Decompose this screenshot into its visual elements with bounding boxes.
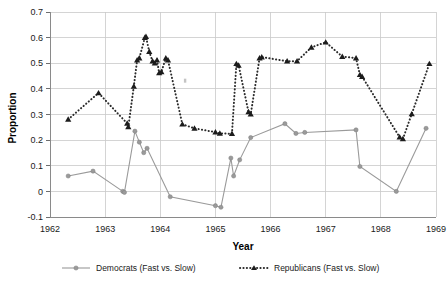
x-tick-label: 1967 [316,224,336,234]
legend: Democrats (Fast vs. Slow) Republicans (F… [62,263,380,273]
republicans-data-point [131,83,137,88]
republicans-data-point [143,34,149,39]
y-tick-label: 0.1 [30,161,43,171]
series-republicans [65,34,432,142]
republicans-data-point [179,121,185,126]
republicans-data-point [212,129,218,134]
x-tick-label: 1963 [95,224,115,234]
tick-marks [46,12,50,217]
y-tick-label: 0 [38,187,43,197]
republicans-data-point [154,57,160,62]
democrats-data-point [358,164,362,168]
x-tick-label: 1964 [150,224,170,234]
republicans-data-point [146,49,152,54]
republicans-line-path [68,37,429,139]
republicans-data-point [409,111,415,116]
republicans-data-point [323,39,329,44]
democrats-data-point [219,205,223,209]
democrats-data-point [122,190,126,194]
democrats-data-point [283,122,287,126]
legend-marker-democrats [74,266,78,270]
democrats-data-point [238,158,242,162]
democrats-data-point [229,156,233,160]
y-tick-label: -0.1 [27,212,43,222]
x-axis-title: Year [232,241,253,252]
democrats-data-point [294,131,298,135]
democrats-data-point [142,151,146,155]
y-tick-label: 0.7 [30,7,43,17]
x-tick-label: 1968 [371,224,391,234]
x-tick-label: 1965 [205,224,225,234]
x-tick-label: 1962 [40,224,60,234]
legend-label-democrats: Democrats (Fast vs. Slow) [96,263,196,273]
y-axis-tick-labels: 0.70.60.50.40.30.20.10-0.1 [27,7,43,222]
chart-container: 0.70.60.50.40.30.20.10-0.1 1962196319641… [0,0,448,286]
democrats-data-point [66,174,70,178]
y-tick-label: 0.3 [30,110,43,120]
democrats-data-point [91,169,95,173]
x-tick-label: 1969 [426,224,446,234]
democrats-data-point [249,135,253,139]
y-axis-title: Proportion [7,92,18,143]
republicans-data-point [353,55,359,60]
democrats-data-point [424,126,428,130]
y-tick-label: 0.6 [30,33,43,43]
legend-label-republicans: Republicans (Fast vs. Slow) [274,263,380,273]
republicans-data-point [95,90,101,95]
democrats-data-point [168,195,172,199]
democrats-data-point [232,174,236,178]
y-tick-label: 0.5 [30,58,43,68]
democrats-data-point [303,130,307,134]
democrats-data-point [213,204,217,208]
democrats-data-point [133,129,137,133]
grid-lines [50,12,436,217]
democrats-data-point [145,146,149,150]
x-tick-label: 1966 [261,224,281,234]
democrats-data-point [137,140,141,144]
democrats-data-point [394,189,398,193]
x-axis-tick-labels: 19621963196419651966196719681969 [40,224,446,234]
y-tick-label: 0.4 [30,84,43,94]
line-chart: 0.70.60.50.40.30.20.10-0.1 1962196319641… [0,0,448,286]
stray-data-marker [184,79,186,83]
stray-marker [184,79,186,83]
y-tick-label: 0.2 [30,135,43,145]
democrats-data-point [354,128,358,132]
